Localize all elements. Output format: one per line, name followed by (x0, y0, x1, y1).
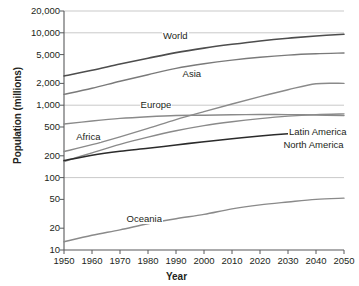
series-label-latin-america: Latin America (288, 126, 348, 137)
series-line-asia (64, 53, 344, 94)
series-line-world (64, 34, 344, 76)
series-label-oceania: Oceania (126, 213, 163, 224)
series-line-latin-america (64, 114, 344, 162)
series-line-oceania (64, 198, 344, 242)
series-label-africa: Africa (75, 131, 101, 142)
series-label-europe: Europe (140, 99, 173, 110)
series-label-world: World (162, 30, 189, 41)
series-label-north-america: North America (282, 139, 344, 150)
series-label-asia: Asia (182, 68, 202, 79)
